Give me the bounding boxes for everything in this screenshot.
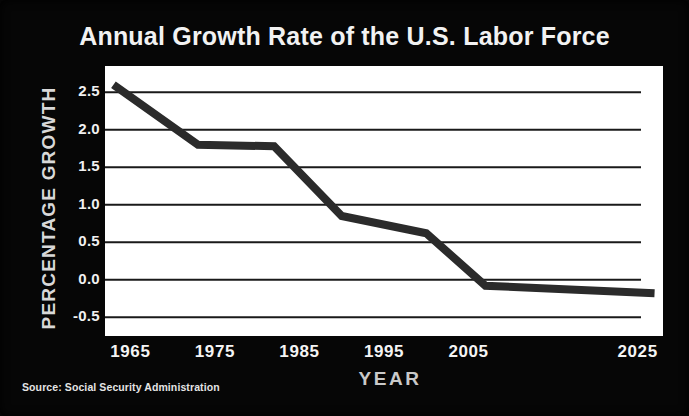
chart-screenshot: Annual Growth Rate of the U.S. Labor For… (0, 0, 689, 416)
x-tick-label: 1995 (344, 342, 424, 362)
x-tick-label: 2005 (429, 342, 509, 362)
source-note: Source: Social Security Administration (22, 381, 220, 393)
x-tick-label: 2025 (598, 342, 678, 362)
x-axis-tick-labels: 196519751985199520052025 (0, 0, 689, 416)
x-axis-title: YEAR (280, 368, 500, 390)
x-tick-label: 1985 (259, 342, 339, 362)
x-tick-label: 1975 (175, 342, 255, 362)
x-tick-label: 1965 (90, 342, 170, 362)
